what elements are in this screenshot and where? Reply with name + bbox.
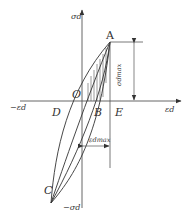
strain-axis-label-left: −εd [10,104,26,112]
stress-neg-text: σd [70,203,81,212]
point-o-label: O [72,89,81,100]
stress-max-label: σdmax [116,64,123,86]
minus-sign: − [63,203,70,212]
hysteresis-diagram: σd −σd εd −εd A O D B E C σdmax εdmax [0,0,190,222]
chord-line [51,42,110,203]
point-a-label: A [106,30,114,41]
inner-curve [51,42,110,203]
point-e-label: E [115,107,123,118]
point-c-label: C [44,185,52,196]
stress-axis-label-bottom: −σd [63,204,80,212]
point-b-label: B [94,107,102,118]
minus-sign: − [10,103,17,112]
point-d-label: D [52,107,61,118]
strain-max-label: εdmax [89,137,110,144]
stress-axis-label-top: σd [71,13,82,21]
loading-curve-outer [51,42,110,203]
unloading-curve-outer [51,42,110,203]
strain-axis-label-right: εd [165,106,174,114]
strain-neg-text: εd [17,103,26,112]
